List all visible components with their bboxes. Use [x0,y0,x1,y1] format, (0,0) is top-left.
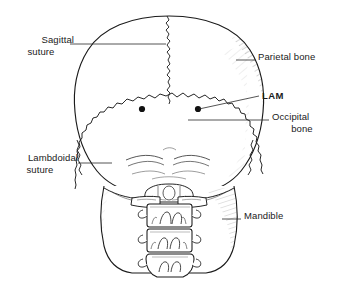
label-sagittal-suture-line2: suture [8,46,74,58]
label-occipital-bone-line1: Occipital [272,111,332,123]
anatomical-figure: Sagittal suture Lambdoidal suture Pariet… [0,0,339,289]
label-sagittal-suture-line1: Sagittal [8,34,74,46]
label-lambdoidal-suture-line1: Lambdoidal [2,152,78,164]
label-occipital-bone-line2: bone [272,123,332,135]
label-occipital-bone: Occipital bone [272,111,332,134]
label-mandible: Mandible [244,210,314,222]
label-lam: LAM [262,90,322,102]
label-lam-line1: LAM [262,90,322,102]
label-mandible-line1: Mandible [244,210,314,222]
label-lambdoidal-suture-line2: suture [2,164,78,176]
cranial-vault [74,16,268,192]
label-lambdoidal-suture: Lambdoidal suture [2,152,78,175]
label-sagittal-suture: Sagittal suture [8,34,74,57]
label-parietal-bone-line1: Parietal bone [258,51,336,63]
vertebra-c3 [138,229,201,252]
vertebra-c2 [138,204,201,227]
lam-dot-left [139,106,145,112]
label-parietal-bone: Parietal bone [258,51,336,63]
